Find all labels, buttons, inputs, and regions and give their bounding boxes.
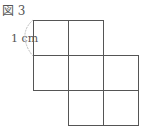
grid-cell bbox=[69, 56, 104, 91]
grid-cell bbox=[104, 56, 139, 91]
grid-cell bbox=[69, 21, 104, 56]
grid-cell bbox=[34, 56, 69, 91]
grid-cell bbox=[69, 91, 104, 126]
grid-cell bbox=[104, 91, 139, 126]
dimension-brace bbox=[25, 20, 33, 56]
grid-cell bbox=[34, 21, 69, 56]
grid-diagram bbox=[0, 0, 149, 138]
grid-cells bbox=[34, 21, 139, 126]
